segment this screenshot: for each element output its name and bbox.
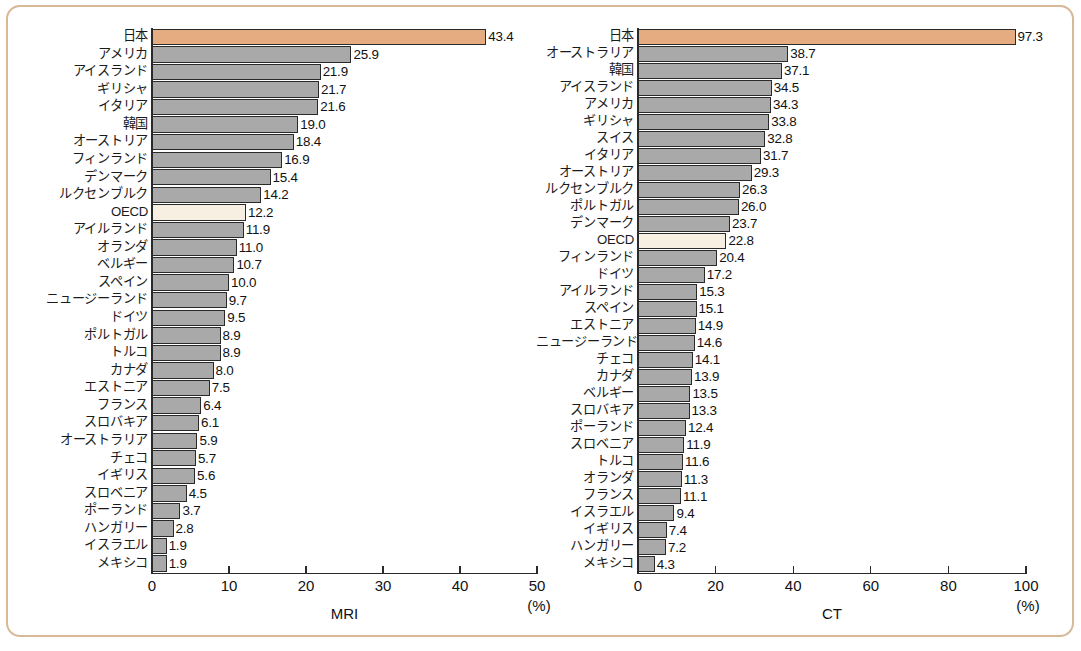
bar [152,152,282,168]
bar-wrap: 5.9 [152,433,537,449]
bar-wrap: 9.4 [638,505,1026,521]
bar [638,403,690,419]
bar-row: フィンランド16.9 [0,151,545,169]
bar-row: アイルランド11.9 [0,221,545,239]
x-axis-tick-label: 30 [375,577,392,594]
bar-value-label: 34.5 [772,79,799,96]
category-label: ギリシャ [536,113,634,131]
category-label: イギリス [0,467,148,485]
bar-wrap: 12.4 [638,420,1026,436]
category-label: スペイン [0,274,148,292]
bar-wrap: 1.9 [152,538,537,554]
category-label: アイスランド [0,63,148,81]
bar [638,216,730,232]
category-label: イスラエル [0,537,148,555]
category-label: カナダ [0,362,148,380]
bar-value-label: 26.3 [740,181,767,198]
bar-value-label: 4.5 [187,485,207,502]
bar-row: フィンランド20.4 [536,249,1034,266]
bar-wrap: 7.5 [152,380,537,396]
bar-value-label: 6.1 [199,414,219,431]
bar-wrap: 1.9 [152,555,537,571]
bar-rows-mri: 日本43.4アメリカ25.9アイスランド21.9ギリシャ21.7イタリア21.6… [0,28,545,572]
bar [152,64,321,80]
bar [638,488,681,504]
chart-mri: 日本43.4アメリカ25.9アイスランド21.9ギリシャ21.7イタリア21.6… [0,0,545,651]
bar-value-label: 2.8 [174,520,194,537]
bar [152,503,180,519]
bar-value-label: 20.4 [717,249,744,266]
category-label: 韓国 [536,62,634,80]
bar-wrap: 14.2 [152,187,537,203]
category-label: フランス [0,397,148,415]
x-axis-line-mri [151,573,538,575]
category-label: フィンランド [536,249,634,267]
bar-value-label: 31.7 [761,147,788,164]
bar-wrap: 97.3 [638,29,1026,45]
x-axis-tick [228,566,229,573]
bar-wrap: 11.9 [638,437,1026,453]
bar [638,114,769,130]
bar-value-label: 4.3 [655,556,675,573]
x-axis-line-ct [637,573,1027,575]
bar-row: スロベニア11.9 [536,436,1034,453]
bar-value-label: 22.8 [726,232,753,249]
bar-wrap: 8.9 [152,345,537,361]
bar [638,165,752,181]
bar-wrap: 13.3 [638,403,1026,419]
bar-row: フランス11.1 [536,487,1034,504]
bar-wrap: 14.9 [638,318,1026,334]
category-label: 韓国 [0,116,148,134]
bar-wrap: 15.3 [638,284,1026,300]
bar [638,267,705,283]
x-axis-tick [382,566,383,573]
category-label: ルクセンブルク [0,186,148,204]
bar-value-label: 29.3 [752,164,779,181]
bar-value-label: 8.9 [221,327,241,344]
category-label: ベルギー [0,256,148,274]
bar-row: 日本97.3 [536,28,1034,45]
category-label: フランス [536,487,634,505]
bar-row: ベルギー13.5 [536,385,1034,402]
x-axis-tick-label: 100 [1013,577,1038,594]
bar-wrap: 11.6 [638,454,1026,470]
bar [152,46,351,62]
category-label: ドイツ [0,309,148,327]
bar-row: メキシコ1.9 [0,555,545,573]
bar-row: アイスランド21.9 [0,63,545,81]
bar-wrap: 5.7 [152,450,537,466]
bar-wrap: 6.4 [152,397,537,413]
x-axis-title: CT [822,605,842,622]
category-label: オーストラリア [0,432,148,450]
bar-row: ドイツ9.5 [0,309,545,327]
bar-value-label: 7.5 [210,379,230,396]
x-axis-tick-label: 20 [298,577,315,594]
bar-row: 日本43.4 [0,28,545,46]
bar-row: スペイン15.1 [536,300,1034,317]
bar-wrap: 11.0 [152,239,537,255]
bar-wrap: 37.1 [638,63,1026,79]
bar-row: イタリア31.7 [536,147,1034,164]
bar-wrap: 13.9 [638,369,1026,385]
bar-row: メキシコ4.3 [536,555,1034,572]
bar [638,556,655,572]
bar-row: アメリカ34.3 [536,96,1034,113]
x-axis-tick-label: 40 [785,577,802,594]
bar-value-label: 7.4 [667,522,687,539]
category-label: カナダ [536,368,634,386]
bar [638,318,696,334]
bar-value-label: 15.1 [697,300,724,317]
bar [152,116,298,132]
bar-wrap: 25.9 [152,46,537,62]
bar-row: イスラエル1.9 [0,537,545,555]
bar-wrap: 43.4 [152,29,537,45]
bar-row: ギリシャ33.8 [536,113,1034,130]
bar-value-label: 1.9 [167,555,187,572]
bar [638,182,740,198]
bar-row: ルクセンブルク26.3 [536,181,1034,198]
x-axis-tick-label: 0 [634,577,642,594]
bar-wrap: 3.7 [152,503,537,519]
bar-value-label: 11.6 [683,453,709,470]
bar-value-label: 12.2 [246,204,273,221]
bar-value-label: 3.7 [180,502,200,519]
